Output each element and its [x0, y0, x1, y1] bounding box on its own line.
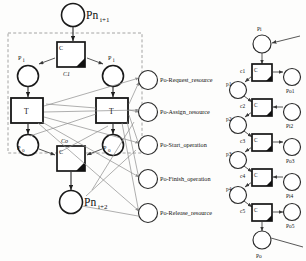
place-pn-i-plus-1	[62, 4, 85, 27]
label-right-p2: p2	[226, 116, 232, 122]
label-po-right: P	[103, 144, 107, 151]
place-right-po5	[284, 204, 301, 221]
label-pn-i-plus-1-sub: i+1	[100, 16, 110, 24]
label-right-po5: Po5	[286, 223, 295, 229]
arc-c1-to-pi-left	[39, 58, 55, 64]
label-right-p1: p1	[226, 81, 232, 87]
label-right-c5-letter: C	[254, 207, 258, 213]
label-pi-right-sub: i	[113, 57, 115, 63]
label-pn-i-plus-2: Pn	[84, 196, 96, 208]
label-op-assign: Po-Assign_resource	[160, 108, 210, 115]
place-op-finish	[139, 170, 158, 189]
place-right-po1	[284, 69, 301, 86]
arc-right-p3-to-c4	[244, 166, 252, 172]
label-c1-name: C1	[63, 71, 70, 77]
label-right-c5-name: c5	[240, 208, 245, 214]
label-right-po: Po	[256, 253, 262, 259]
label-right-c3-name: c3	[240, 138, 245, 144]
arc-right-po-to-external	[271, 238, 303, 247]
petri-net-canvas: Pn i+1 Pn i+2 C C1 C Co P i P i P o P o …	[0, 0, 306, 261]
label-right-po1: Po1	[286, 88, 295, 94]
place-right-pi2	[284, 104, 301, 121]
label-co-name: Co	[61, 138, 68, 144]
place-right-pi4	[284, 174, 301, 191]
label-pi-left-sub: i	[23, 57, 25, 63]
label-po-right-sub: o	[108, 147, 111, 153]
place-right-p4	[230, 187, 247, 204]
label-right-c2-letter: C	[254, 102, 258, 108]
label-op-finish: Po-Finish_operation	[160, 175, 211, 182]
place-right-po3	[284, 139, 301, 156]
label-right-p4: p4	[226, 186, 232, 192]
arc-right-p4-to-c5	[244, 201, 252, 207]
place-pi-left	[18, 66, 39, 87]
label-right-c3-letter: C	[254, 137, 258, 143]
label-right-pi2: Pi2	[286, 123, 293, 129]
label-po-left: P	[17, 144, 21, 151]
label-right-c1-name: c1	[240, 68, 245, 74]
arc-right-p1-to-c2	[244, 96, 252, 102]
arc-right-c1-to-p1	[245, 76, 252, 82]
label-co-letter: C	[59, 148, 63, 155]
label-c1-letter: C	[59, 44, 63, 51]
label-pn-i-plus-2-sub: i+2	[98, 203, 108, 211]
petri-net-figure: Pn i+1 Pn i+2 C C1 C Co P i P i P o P o …	[0, 0, 306, 261]
label-pi-right: P	[108, 54, 112, 61]
label-right-po3: Po3	[286, 158, 295, 164]
arc-cross-1	[46, 104, 96, 108]
label-pn-i-plus-1: Pn	[86, 9, 98, 21]
label-po-left-sub: o	[22, 147, 25, 153]
place-right-p3	[230, 152, 247, 169]
place-right-po	[253, 231, 271, 249]
arc-right-c2-to-p2	[245, 112, 252, 117]
place-right-p1	[230, 82, 247, 99]
label-transition-t-right: T	[109, 107, 114, 116]
place-op-start	[139, 136, 158, 155]
arc-po-left-to-co	[39, 149, 55, 155]
arc-right-c4-to-p4	[245, 182, 252, 187]
arc-right-c3-to-p3	[245, 147, 252, 152]
arc-cross-5	[86, 150, 136, 196]
arc-c1-to-pi-right	[87, 58, 103, 64]
place-op-release	[139, 204, 158, 223]
place-op-request	[139, 71, 158, 90]
label-right-pi4: Pi4	[286, 193, 293, 199]
label-op-start: Po-Start_operation	[160, 141, 207, 148]
label-op-request: Po-Request_resource	[160, 76, 213, 83]
label-pi-left: P	[18, 54, 22, 61]
label-right-c1-letter: C	[254, 67, 258, 73]
place-right-pi	[253, 35, 271, 53]
label-right-c4-name: c4	[240, 173, 245, 179]
arc-external-to-right-pi	[272, 36, 300, 43]
label-right-p3: p3	[226, 151, 232, 157]
label-transition-t-left: T	[24, 107, 29, 116]
arc-right-p2-to-c3	[244, 131, 252, 137]
place-right-p2	[230, 117, 247, 134]
label-op-release: Po-Release_resource	[160, 209, 212, 216]
label-right-c4-letter: C	[254, 172, 258, 178]
place-op-assign	[139, 103, 158, 122]
arc-t-right-to-op-request	[129, 82, 139, 104]
place-pn-i-plus-2	[60, 191, 83, 214]
label-right-pi: Pi	[257, 26, 262, 32]
place-po-left	[18, 135, 39, 156]
arc-t-right-to-op-finish	[127, 121, 139, 179]
label-right-c2-name: c2	[240, 103, 245, 109]
